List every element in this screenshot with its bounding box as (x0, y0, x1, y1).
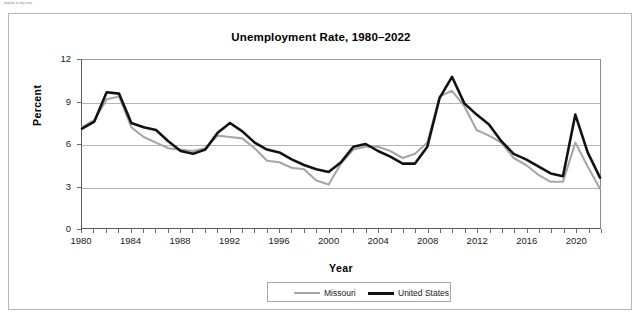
x-tick-mark-2006 (403, 229, 404, 233)
x-tick-mark-2008 (428, 229, 429, 233)
x-tick-mark-2018 (551, 229, 552, 233)
x-tick-mark-1985 (143, 229, 144, 233)
x-tick-mark-1990 (205, 229, 206, 233)
x-tick-mark-2022 (601, 229, 602, 233)
x-tick-mark-1998 (304, 229, 305, 233)
figure-frame: Unemployment Rate, 1980–2022 Percent 036… (8, 13, 632, 310)
x-tick-mark-2009 (440, 229, 441, 233)
legend-item-united-states: United States (368, 287, 449, 299)
y-tick-label-6: 6 (45, 138, 71, 149)
y-tick-mark-12 (77, 59, 81, 60)
y-tick-mark-9 (77, 102, 81, 103)
x-tick-label-2012: 2012 (457, 235, 497, 246)
x-tick-mark-2012 (477, 229, 478, 233)
x-tick-mark-2019 (564, 229, 565, 233)
x-tick-mark-2002 (353, 229, 354, 233)
x-tick-mark-1994 (254, 229, 255, 233)
legend-line-swatch-united-states (368, 292, 394, 295)
y-tick-mark-3 (77, 187, 81, 188)
x-tick-mark-2021 (589, 229, 590, 233)
x-tick-mark-2015 (514, 229, 515, 233)
x-tick-mark-1980 (81, 229, 82, 233)
series-lines (82, 60, 600, 228)
x-tick-mark-1988 (180, 229, 181, 233)
x-tick-label-2020: 2020 (556, 235, 596, 246)
x-tick-mark-2011 (465, 229, 466, 233)
x-tick-mark-2000 (329, 229, 330, 233)
x-tick-label-1988: 1988 (160, 235, 200, 246)
legend-label-united-states: United States (398, 288, 449, 298)
x-tick-mark-2010 (452, 229, 453, 233)
y-tick-label-12: 12 (45, 53, 71, 64)
y-axis-title: Percent (31, 85, 43, 126)
x-tick-label-1996: 1996 (259, 235, 299, 246)
legend-item-missouri: Missouri (294, 287, 356, 299)
plot-area (81, 59, 601, 229)
y-tick-label-3: 3 (45, 181, 71, 192)
chart-legend: Missouri United States (267, 282, 451, 302)
x-tick-mark-2007 (415, 229, 416, 233)
x-tick-mark-1993 (242, 229, 243, 233)
x-tick-mark-1982 (106, 229, 107, 233)
x-tick-mark-1995 (267, 229, 268, 233)
series-line-missouri (82, 91, 600, 189)
x-tick-label-2000: 2000 (309, 235, 349, 246)
x-tick-mark-1986 (155, 229, 156, 233)
x-tick-label-1992: 1992 (210, 235, 250, 246)
x-tick-mark-1992 (230, 229, 231, 233)
x-tick-mark-1991 (217, 229, 218, 233)
x-tick-mark-1999 (316, 229, 317, 233)
x-tick-mark-2013 (490, 229, 491, 233)
chart-page: may be of any race. Unemployment Rate, 1… (0, 0, 640, 318)
x-tick-label-2016: 2016 (507, 235, 547, 246)
x-tick-label-2008: 2008 (408, 235, 448, 246)
x-tick-mark-2003 (366, 229, 367, 233)
x-tick-mark-2016 (527, 229, 528, 233)
x-tick-mark-1981 (93, 229, 94, 233)
x-tick-mark-1984 (131, 229, 132, 233)
chart-title: Unemployment Rate, 1980–2022 (9, 31, 633, 43)
x-tick-mark-1989 (192, 229, 193, 233)
legend-line-swatch-missouri (294, 292, 320, 294)
footnote-scrap-text: may be of any race. (4, 1, 33, 5)
x-tick-label-1984: 1984 (111, 235, 151, 246)
x-tick-mark-2020 (576, 229, 577, 233)
x-tick-mark-1997 (291, 229, 292, 233)
x-tick-mark-1987 (168, 229, 169, 233)
y-tick-label-9: 9 (45, 96, 71, 107)
x-tick-mark-2014 (502, 229, 503, 233)
legend-label-missouri: Missouri (324, 288, 356, 298)
x-tick-mark-2005 (391, 229, 392, 233)
y-tick-mark-6 (77, 144, 81, 145)
y-tick-label-0: 0 (45, 223, 71, 234)
x-tick-mark-2004 (378, 229, 379, 233)
x-tick-mark-2017 (539, 229, 540, 233)
x-tick-label-1980: 1980 (61, 235, 101, 246)
x-tick-mark-1983 (118, 229, 119, 233)
x-axis-title: Year (81, 262, 601, 274)
x-tick-label-2004: 2004 (358, 235, 398, 246)
x-tick-mark-2001 (341, 229, 342, 233)
x-tick-mark-1996 (279, 229, 280, 233)
